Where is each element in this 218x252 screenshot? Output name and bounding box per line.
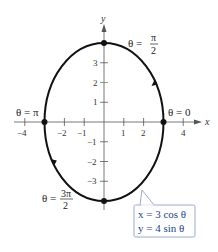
x-axis-arrow-icon [194, 120, 202, 125]
svg-text:θ =: θ = [128, 37, 142, 49]
annotation-theta-0: θ = 0 [168, 106, 191, 118]
parametric-ellipse-chart: x y −4 −2 −1 1 2 4 3 2 1 −1 −2 −3 [0, 0, 218, 252]
annotation-theta-pi: θ = π [16, 106, 39, 118]
y-tick-label: 3 [93, 58, 98, 68]
callout-pointer [140, 190, 154, 205]
callout-line-x: x = 3 cos θ [138, 208, 186, 220]
svg-text:2: 2 [151, 45, 156, 56]
svg-text:3π: 3π [61, 188, 71, 199]
svg-text:θ =: θ = [42, 192, 56, 204]
callout-line-y: y = 4 sin θ [138, 222, 184, 234]
y-axis-label: y [100, 13, 106, 24]
x-tick-label: 2 [141, 128, 146, 138]
point-theta-pi [42, 119, 48, 125]
x-tick-label: −4 [17, 128, 27, 138]
y-tick-label: 1 [93, 97, 98, 107]
y-tick-label: −1 [87, 137, 97, 147]
x-axis-label: x [204, 116, 210, 127]
x-tick-label: 1 [121, 128, 126, 138]
y-tick-label: −2 [87, 157, 97, 167]
x-tick-label: 4 [181, 128, 186, 138]
point-theta-3pi-over-2 [101, 198, 107, 204]
y-tick-label: 2 [93, 78, 98, 88]
svg-text:2: 2 [63, 200, 68, 211]
x-tick-label: −1 [77, 128, 87, 138]
annotation-theta-3pi-over-2: θ = 3π 2 [42, 188, 73, 211]
equation-callout: x = 3 cos θ y = 4 sin θ [134, 190, 195, 237]
y-tick-label: −3 [87, 176, 97, 186]
point-theta-0 [161, 119, 167, 125]
x-tick-labels: −4 −2 −1 1 2 4 [17, 128, 186, 138]
point-theta-pi-over-2 [101, 40, 107, 46]
svg-text:π: π [151, 32, 156, 43]
y-axis-arrow-icon [102, 24, 107, 32]
x-tick-label: −2 [57, 128, 67, 138]
direction-arrow-icon [51, 159, 57, 166]
